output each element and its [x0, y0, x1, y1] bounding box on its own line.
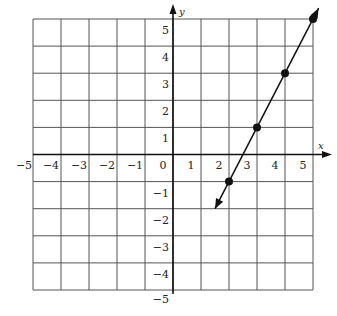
x-tick-label: −4	[43, 159, 59, 172]
data-point	[225, 178, 233, 186]
y-tick-label: 1	[162, 132, 169, 145]
coordinate-plane: −5−4−3−2−101234554321−1−2−3−4−5 x y	[0, 0, 337, 316]
line-arrow-down-icon	[215, 198, 223, 209]
y-tick-label: −1	[153, 187, 169, 200]
y-tick-label: 5	[162, 24, 169, 37]
axes	[33, 4, 332, 294]
tick-labels: −5−4−3−2−101234554321−1−2−3−4−5	[16, 24, 307, 306]
y-tick-label: 4	[162, 51, 169, 64]
y-tick-label: −5	[153, 293, 169, 306]
x-tick-label: 0	[160, 159, 167, 172]
y-axis-label: y	[178, 6, 185, 17]
y-tick-label: −4	[153, 268, 169, 281]
y-tick-label: 3	[162, 78, 169, 91]
y-axis-arrow-icon	[170, 4, 177, 14]
data-point	[281, 69, 289, 77]
y-tick-label: −2	[153, 214, 169, 227]
x-tick-label: 5	[300, 159, 307, 172]
x-tick-label: −1	[127, 159, 143, 172]
x-tick-label: 3	[244, 159, 251, 172]
data-point	[309, 15, 317, 23]
x-tick-label: −3	[71, 159, 87, 172]
x-tick-label: 4	[272, 159, 279, 172]
y-tick-label: 2	[162, 105, 169, 118]
x-tick-label: 2	[216, 159, 223, 172]
y-tick-label: −3	[153, 241, 169, 254]
data-point	[253, 123, 261, 131]
x-axis-arrow-icon	[322, 151, 332, 158]
x-tick-label: −5	[16, 159, 32, 172]
x-axis-label: x	[318, 140, 324, 151]
x-tick-label: 1	[188, 159, 195, 172]
data-line	[215, 8, 319, 209]
x-tick-label: −2	[99, 159, 115, 172]
